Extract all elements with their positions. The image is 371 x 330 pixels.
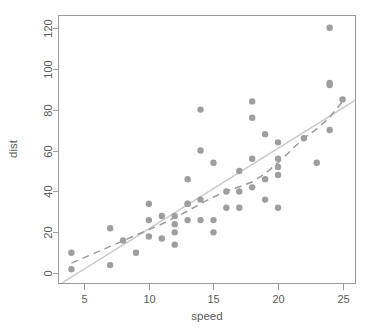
scatter-points-group bbox=[68, 25, 346, 273]
data-point bbox=[262, 131, 268, 137]
data-point bbox=[172, 229, 178, 235]
y-tick-label: 0 bbox=[42, 270, 54, 276]
data-point bbox=[184, 217, 190, 223]
data-point bbox=[146, 233, 152, 239]
x-tick-label: 15 bbox=[207, 293, 219, 305]
data-point bbox=[249, 184, 255, 190]
y-tick-label: 40 bbox=[42, 185, 54, 197]
plot-panel-border bbox=[59, 16, 356, 284]
data-point bbox=[223, 188, 229, 194]
data-point bbox=[275, 156, 281, 162]
x-axis-ticks bbox=[85, 284, 344, 290]
linear-regression-line bbox=[59, 100, 356, 285]
data-point bbox=[107, 262, 113, 268]
data-point bbox=[249, 98, 255, 104]
data-point bbox=[275, 205, 281, 211]
x-tick-label: 5 bbox=[81, 293, 87, 305]
y-axis-title: dist bbox=[7, 139, 19, 158]
data-point bbox=[275, 164, 281, 170]
data-point bbox=[249, 156, 255, 162]
data-point bbox=[184, 176, 190, 182]
data-point bbox=[236, 168, 242, 174]
data-point bbox=[146, 217, 152, 223]
data-point bbox=[275, 172, 281, 178]
y-tick-label: 100 bbox=[42, 60, 54, 78]
data-point bbox=[159, 235, 165, 241]
data-point bbox=[107, 225, 113, 231]
data-point bbox=[197, 147, 203, 153]
data-point bbox=[197, 217, 203, 223]
data-point bbox=[146, 201, 152, 207]
data-point bbox=[172, 213, 178, 219]
lowess-smoother-line bbox=[71, 101, 342, 263]
x-axis-title: speed bbox=[191, 310, 222, 322]
data-point bbox=[314, 160, 320, 166]
data-point bbox=[326, 80, 332, 86]
data-point bbox=[262, 196, 268, 202]
x-tick-label: 20 bbox=[272, 293, 284, 305]
x-axis-tick-labels: 510152025 bbox=[81, 293, 349, 305]
y-tick-label: 20 bbox=[42, 226, 54, 238]
data-point bbox=[236, 205, 242, 211]
y-axis-tick-labels: 020406080100120 bbox=[42, 19, 54, 276]
data-point bbox=[339, 96, 345, 102]
data-point bbox=[275, 139, 281, 145]
data-point bbox=[326, 25, 332, 31]
data-point bbox=[184, 201, 190, 207]
scatter-plot-figure: 510152025 020406080100120 speed dist bbox=[0, 0, 371, 330]
data-point bbox=[301, 135, 307, 141]
data-point bbox=[68, 250, 74, 256]
data-point bbox=[326, 127, 332, 133]
plot-canvas: 510152025 020406080100120 speed dist bbox=[0, 0, 371, 330]
x-tick-label: 25 bbox=[337, 293, 349, 305]
data-point bbox=[68, 266, 74, 272]
x-tick-label: 10 bbox=[143, 293, 155, 305]
data-point bbox=[197, 106, 203, 112]
data-point bbox=[197, 196, 203, 202]
data-point bbox=[262, 176, 268, 182]
data-point bbox=[210, 160, 216, 166]
data-point bbox=[172, 241, 178, 247]
data-point bbox=[210, 217, 216, 223]
data-point bbox=[120, 237, 126, 243]
data-point bbox=[172, 221, 178, 227]
data-point bbox=[159, 213, 165, 219]
data-point bbox=[223, 205, 229, 211]
data-point bbox=[133, 250, 139, 256]
data-point bbox=[210, 229, 216, 235]
y-tick-label: 60 bbox=[42, 145, 54, 157]
y-tick-label: 120 bbox=[42, 19, 54, 37]
data-point bbox=[249, 115, 255, 121]
y-tick-label: 80 bbox=[42, 104, 54, 116]
data-point bbox=[236, 188, 242, 194]
